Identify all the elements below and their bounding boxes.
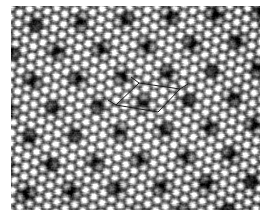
figure-root	[0, 0, 270, 224]
micrograph-image	[11, 6, 260, 210]
micrograph-frame	[11, 6, 260, 210]
